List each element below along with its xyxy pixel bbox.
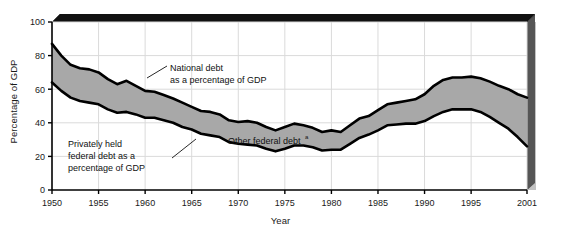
- x-tick-label: 1985: [368, 198, 388, 208]
- y-tick-label: 60: [35, 85, 45, 95]
- privately-held-debt-label-line-3: percentage of GDP: [68, 163, 145, 173]
- chart-figure: 020406080100 195019551960196519701975198…: [0, 0, 561, 243]
- other-federal-debt-label: Other federal debt a: [228, 134, 309, 146]
- x-tick-label: 1970: [228, 198, 248, 208]
- debt-area-chart: 020406080100 195019551960196519701975198…: [0, 0, 561, 243]
- privately-held-debt-label-line-1: Privately held: [68, 139, 122, 149]
- x-tick-label: 1990: [415, 198, 435, 208]
- privately-held-debt-label-line-2: federal debt as a: [68, 151, 135, 161]
- x-tick-label: 1965: [182, 198, 202, 208]
- x-tick-label: 1975: [275, 198, 295, 208]
- x-tick-label: 1955: [89, 198, 109, 208]
- national-debt-label-line-2: as a percentage of GDP: [170, 75, 267, 85]
- x-tick-label: 2001: [517, 198, 537, 208]
- y-tick-label: 40: [35, 118, 45, 128]
- national-debt-label-line-1: National debt: [170, 63, 224, 73]
- other-federal-debt-label-text: Other federal debt: [228, 136, 301, 146]
- y-tick-label: 80: [35, 51, 45, 61]
- y-axis-title: Percentage of GDP: [8, 42, 19, 162]
- x-tick-label: 1960: [135, 198, 155, 208]
- x-tick-label: 1980: [321, 198, 341, 208]
- y-axis-ticks: 020406080100: [30, 17, 52, 195]
- y-tick-label: 0: [40, 185, 45, 195]
- x-axis-ticks: 1950195519601965197019751980198519901995…: [42, 190, 537, 208]
- y-tick-label: 100: [30, 17, 45, 27]
- x-tick-label: 1950: [42, 198, 62, 208]
- x-tick-label: 1995: [461, 198, 481, 208]
- y-tick-label: 20: [35, 152, 45, 162]
- x-axis-title: Year: [0, 215, 561, 226]
